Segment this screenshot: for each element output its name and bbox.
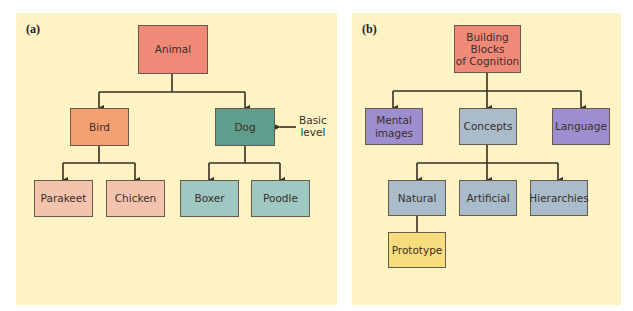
node-building-blocks-of-cognition: Building Blocks of Cognition — [454, 25, 521, 73]
node-natural-label: Natural — [398, 192, 437, 204]
node-natural: Natural — [388, 180, 446, 216]
node-artificial-label: Artificial — [466, 192, 509, 204]
node-poodle: Poodle — [251, 180, 310, 217]
node-root-line3: of Cognition — [456, 55, 520, 67]
node-bird-label: Bird — [89, 121, 110, 133]
node-language-label: Language — [555, 120, 607, 132]
node-boxer-label: Boxer — [195, 192, 225, 204]
basic-level-annotation: Basic level — [299, 114, 327, 138]
node-language: Language — [552, 108, 610, 145]
node-chicken-label: Chicken — [115, 192, 157, 204]
node-mental-images: Mental images — [365, 108, 423, 145]
node-animal-label: Animal — [155, 43, 191, 55]
panel-b-cognition-building-blocks: (b) Building Blocks of Cognition Mental — [352, 13, 621, 305]
node-hierarchies: Hierarchies — [530, 180, 588, 216]
node-concepts-label: Concepts — [464, 120, 513, 132]
node-animal: Animal — [138, 25, 208, 74]
node-dog-label: Dog — [234, 121, 255, 133]
node-poodle-label: Poodle — [263, 192, 298, 204]
node-prototype-label: Prototype — [392, 244, 443, 256]
node-parakeet: Parakeet — [34, 180, 93, 217]
basic-level-line2: level — [299, 126, 327, 138]
node-mental-line2: images — [375, 127, 413, 139]
node-root-line1: Building — [466, 31, 509, 43]
node-root-line2: Blocks — [471, 43, 505, 55]
node-prototype: Prototype — [388, 232, 446, 268]
basic-level-line1: Basic — [299, 114, 327, 126]
node-hierarchies-label: Hierarchies — [529, 192, 588, 204]
node-bird: Bird — [70, 108, 129, 146]
node-chicken: Chicken — [106, 180, 165, 217]
node-parakeet-label: Parakeet — [41, 192, 87, 204]
node-mental-line1: Mental — [376, 114, 412, 126]
node-artificial: Artificial — [459, 180, 517, 216]
panel-a-animal-hierarchy: (a) — [16, 13, 337, 305]
node-dog: Dog — [215, 108, 275, 146]
node-concepts: Concepts — [459, 108, 517, 145]
node-boxer: Boxer — [180, 180, 239, 217]
